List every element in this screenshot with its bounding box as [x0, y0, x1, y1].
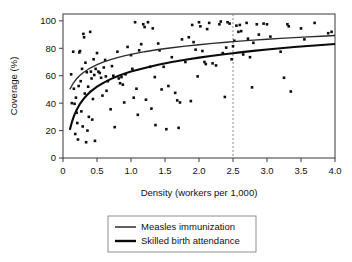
- data-point: [211, 62, 214, 65]
- data-point: [283, 76, 286, 79]
- data-point: [240, 30, 243, 33]
- data-point: [134, 21, 137, 24]
- data-point: [111, 65, 114, 68]
- data-point: [191, 24, 194, 27]
- data-point: [192, 41, 195, 44]
- data-point: [113, 126, 116, 129]
- data-point: [160, 88, 163, 91]
- data-point: [154, 76, 157, 79]
- data-point: [87, 85, 90, 88]
- data-point: [258, 33, 261, 36]
- data-point: [77, 138, 80, 141]
- data-point: [103, 66, 106, 69]
- data-point: [145, 98, 148, 101]
- data-point: [184, 61, 187, 64]
- data-point: [171, 56, 174, 59]
- data-point: [83, 92, 86, 95]
- data-point: [82, 33, 85, 36]
- data-point: [174, 92, 177, 95]
- legend-label-measles: Measles immunization: [141, 221, 235, 232]
- data-point: [90, 77, 93, 80]
- data-point: [91, 118, 94, 121]
- data-point: [98, 72, 101, 75]
- data-point: [247, 37, 250, 40]
- x-tick-label: 3.5: [294, 165, 307, 176]
- data-point: [116, 50, 119, 53]
- data-point: [179, 101, 182, 104]
- data-point: [165, 128, 168, 131]
- coverage-vs-density-scatter-plot: 020406080100 00.51.01.52.02.53.03.54.0 D…: [0, 0, 352, 262]
- data-point: [135, 87, 138, 90]
- x-axis-title: Density (workers per 1,000): [141, 187, 258, 198]
- data-point: [327, 32, 330, 35]
- data-point: [176, 99, 179, 102]
- data-point: [105, 90, 108, 93]
- y-tick-label: 60: [45, 70, 56, 81]
- data-point: [151, 27, 154, 30]
- data-point: [188, 36, 191, 39]
- data-point: [190, 100, 193, 103]
- data-point: [230, 58, 233, 61]
- data-point: [218, 23, 221, 26]
- data-point: [245, 22, 248, 25]
- data-point: [251, 86, 254, 89]
- data-point: [252, 42, 255, 45]
- data-point: [154, 124, 157, 127]
- x-tick-label: 0.5: [90, 165, 103, 176]
- y-tick-label: 40: [45, 98, 56, 109]
- data-point: [266, 23, 269, 26]
- data-point: [235, 24, 238, 27]
- y-axis-title: Coverage (%): [8, 57, 19, 116]
- y-tick-label: 20: [45, 125, 56, 136]
- data-point: [300, 27, 303, 30]
- data-point: [313, 22, 316, 25]
- data-point: [84, 61, 87, 64]
- y-tick-label: 100: [40, 15, 56, 26]
- data-point: [143, 26, 146, 29]
- data-point: [126, 46, 129, 49]
- data-point: [147, 21, 150, 24]
- data-point: [162, 66, 165, 69]
- data-point: [198, 21, 201, 24]
- data-point: [74, 133, 77, 136]
- data-point: [232, 45, 235, 48]
- data-point: [256, 23, 259, 26]
- data-point: [72, 50, 75, 53]
- y-tick-label: 80: [45, 43, 56, 54]
- data-point: [92, 98, 95, 101]
- data-point: [199, 25, 202, 28]
- data-point: [73, 103, 76, 106]
- data-point: [194, 48, 197, 51]
- data-point: [90, 70, 93, 73]
- data-point: [287, 25, 290, 28]
- data-point: [92, 58, 95, 61]
- data-point: [290, 90, 293, 93]
- data-point: [81, 68, 84, 71]
- data-point: [206, 28, 209, 31]
- data-point: [138, 49, 141, 52]
- chart-figure: 020406080100 00.51.01.52.02.53.03.54.0 D…: [0, 0, 352, 262]
- data-point: [80, 110, 83, 113]
- data-point: [142, 23, 145, 26]
- x-tick-label: 4.0: [328, 165, 341, 176]
- data-point: [93, 74, 96, 77]
- data-point: [70, 73, 73, 76]
- data-point: [73, 87, 76, 90]
- data-point: [150, 107, 153, 110]
- data-point: [83, 36, 86, 39]
- data-point: [137, 114, 140, 117]
- legend-label-skilled-birth: Skilled birth attendance: [141, 235, 240, 246]
- data-point: [279, 50, 282, 53]
- data-point: [237, 31, 240, 34]
- data-point: [167, 85, 170, 88]
- data-point: [177, 127, 180, 130]
- data-point: [215, 64, 218, 67]
- data-point: [88, 116, 91, 119]
- data-point: [303, 38, 306, 41]
- data-point: [109, 108, 112, 111]
- x-tick-label: 2.5: [226, 165, 239, 176]
- data-point: [132, 96, 135, 99]
- data-point: [219, 20, 222, 23]
- data-point: [196, 75, 199, 78]
- data-point: [157, 42, 160, 45]
